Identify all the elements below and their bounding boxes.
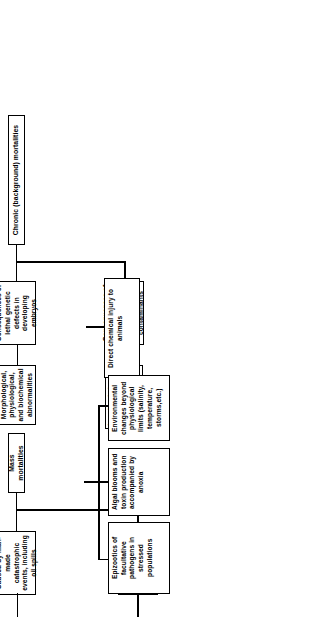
node-algal-blooms[interactable]: Algal blooms and toxin production accomp… bbox=[108, 448, 170, 516]
node-chemical-injury[interactable]: Direct chemical injury to animals bbox=[104, 278, 140, 378]
node-epizootics-label: Epizootics of facultative pathogens in s… bbox=[111, 524, 167, 592]
node-env-changes[interactable]: Environmental changes beyond physiologic… bbox=[108, 375, 170, 441]
connector-to-chemical-injury bbox=[86, 326, 106, 328]
node-chemical-injury-label: Direct chemical injury to animals bbox=[107, 280, 137, 376]
node-algal-blooms-label: Algal blooms and toxin production accomp… bbox=[111, 450, 167, 514]
node-epizootics[interactable]: Epizootics of facultative pathogens in s… bbox=[108, 522, 170, 594]
connector-natural-to-bracket bbox=[84, 481, 100, 483]
node-env-changes-label: Environmental changes beyond physiologic… bbox=[111, 377, 167, 439]
leaf-column: Direct chemical injury to animals Enviro… bbox=[0, 0, 320, 603]
